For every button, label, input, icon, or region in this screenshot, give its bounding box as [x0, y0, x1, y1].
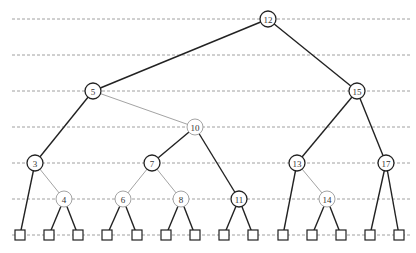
leaf-square-icon	[190, 230, 200, 240]
leaf-node	[248, 230, 258, 240]
leaf-node	[365, 230, 375, 240]
leaf-square-icon	[15, 230, 25, 240]
leaf-node	[219, 230, 229, 240]
leaf-square-icon	[307, 230, 317, 240]
tree-edge	[357, 91, 386, 163]
node-label: 13	[293, 159, 303, 169]
node-label: 7	[150, 159, 155, 169]
leaf-node	[15, 230, 25, 240]
leaf-node	[102, 230, 112, 240]
tree-node-15: 15	[349, 83, 365, 99]
leaf-square-icon	[132, 230, 142, 240]
node-label: 5	[91, 87, 96, 97]
node-label: 11	[235, 195, 244, 205]
tree-node-11: 11	[231, 191, 247, 207]
node-label: 10	[191, 123, 201, 133]
tree-node-12: 12	[260, 11, 276, 27]
leaf-square-icon	[44, 230, 54, 240]
leaf-node	[394, 230, 404, 240]
leaf-node	[161, 230, 171, 240]
node-label: 4	[62, 195, 67, 205]
tree-node-3: 3	[27, 155, 43, 171]
leaf-square-icon	[73, 230, 83, 240]
tree-node-4: 4	[56, 191, 72, 207]
node-label: 3	[33, 159, 38, 169]
tree-node-14: 14	[319, 191, 335, 207]
leaf-square-icon	[365, 230, 375, 240]
node-label: 14	[323, 195, 333, 205]
node-label: 12	[264, 15, 273, 25]
leaf-square-icon	[219, 230, 229, 240]
node-label: 8	[179, 195, 184, 205]
leaf-node	[73, 230, 83, 240]
tree-node-8: 8	[173, 191, 189, 207]
leaf-node	[307, 230, 317, 240]
tree-edge	[93, 91, 195, 127]
tree-node-10: 10	[187, 119, 203, 135]
tree-node-13: 13	[289, 155, 305, 171]
leaf-node	[44, 230, 54, 240]
tree-node-6: 6	[115, 191, 131, 207]
leaf-square-icon	[161, 230, 171, 240]
nodes: 12515103713174681114	[27, 11, 394, 207]
node-label: 6	[121, 195, 126, 205]
leaf-node	[336, 230, 346, 240]
leaf-square-icon	[394, 230, 404, 240]
leaf-node	[190, 230, 200, 240]
leaf-square-icon	[336, 230, 346, 240]
tree-node-7: 7	[144, 155, 160, 171]
node-label: 17	[382, 159, 392, 169]
tree-node-5: 5	[85, 83, 101, 99]
tree-node-17: 17	[378, 155, 394, 171]
leaf-node	[278, 230, 288, 240]
node-label: 15	[353, 87, 363, 97]
leaf-square-icon	[248, 230, 258, 240]
tree-diagram: 12515103713174681114	[0, 0, 416, 253]
leaf-node	[132, 230, 142, 240]
level-lines	[12, 19, 410, 235]
leaf-square-icon	[278, 230, 288, 240]
leaf-square-icon	[102, 230, 112, 240]
